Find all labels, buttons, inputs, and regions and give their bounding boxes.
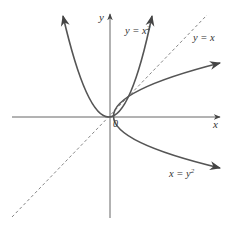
parabola-x-equals-y-squared: [114, 63, 221, 168]
origin-label: 0: [113, 118, 118, 129]
curve-label-y-equals-x-squared: y = x2: [124, 24, 151, 36]
function-graph: y x 0 y = x2 y = x x = y2: [0, 0, 233, 227]
curve-label-y-equals-x: y = x: [192, 32, 215, 43]
x-axis-label: x: [212, 118, 218, 130]
curve-label-x-equals-y-squared: x = y2: [168, 167, 195, 179]
y-axis-label: y: [98, 11, 104, 23]
